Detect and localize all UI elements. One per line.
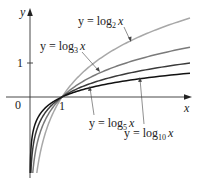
- x-axis-label: x: [183, 101, 190, 115]
- origin-label: 0: [15, 98, 21, 112]
- label-log2-base: 2: [112, 21, 116, 30]
- leader-log5: [90, 88, 94, 115]
- label-log2: y = log2x: [78, 14, 124, 30]
- y-tick-label-1: 1: [17, 56, 23, 70]
- x-tick-label-1: 1: [59, 99, 65, 113]
- label-log3-prefix: y = log: [40, 39, 74, 53]
- y-axis-arrow-icon: [27, 8, 33, 16]
- label-log2-prefix: y = log: [78, 14, 112, 28]
- label-log3: y = log3x: [40, 39, 86, 55]
- label-log10: y = log10x: [124, 126, 174, 142]
- label-log10-prefix: y = log: [124, 126, 158, 140]
- x-axis-arrow-icon: [184, 94, 192, 100]
- y-axis-label: y: [19, 5, 26, 19]
- label-log10-var: x: [167, 126, 174, 140]
- label-log5-prefix: y = log: [89, 116, 123, 130]
- label-log3-var: x: [79, 39, 86, 53]
- label-log10-base: 10: [158, 133, 166, 142]
- log-functions-chart: y x 0 1 1 y = log2x y = log3x y = log5x …: [0, 0, 202, 191]
- label-log3-base: 3: [74, 46, 78, 55]
- label-log2-var: x: [117, 14, 124, 28]
- leader-log10: [140, 79, 144, 124]
